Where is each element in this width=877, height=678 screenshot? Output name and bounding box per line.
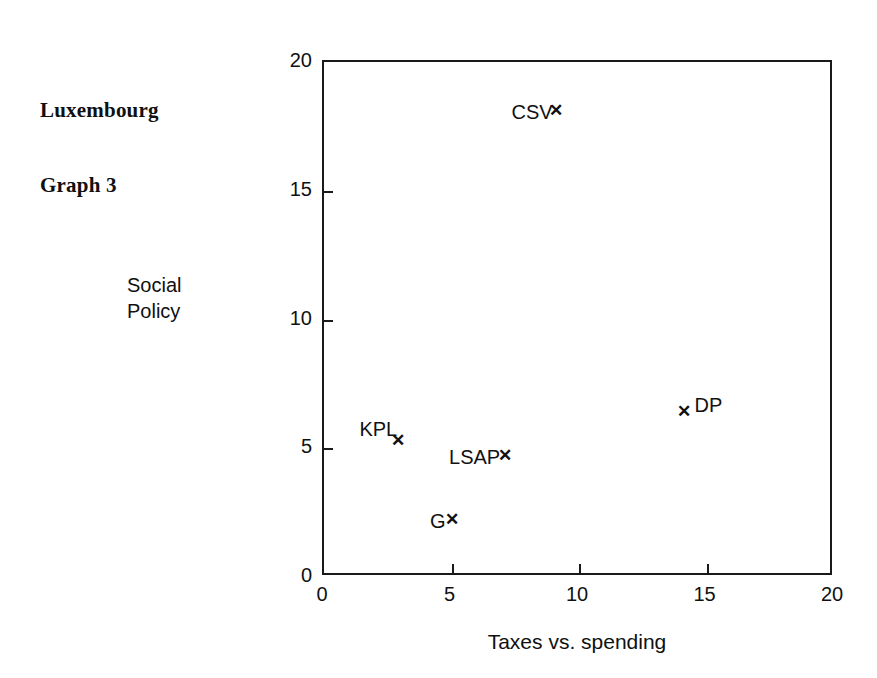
x-axis-tick — [579, 564, 581, 573]
corner-title-line-1: Luxembourg — [40, 98, 159, 123]
x-axis-tick — [707, 564, 709, 573]
data-point-label: G — [430, 511, 446, 531]
x-tick-label: 15 — [675, 583, 735, 605]
x-tick-label-group: 05101520 — [322, 583, 832, 613]
y-axis-tick — [324, 448, 333, 450]
corner-title-line-2: Graph 3 — [40, 173, 159, 198]
x-tick-label: 20 — [802, 583, 862, 605]
x-tick-label: 0 — [292, 583, 352, 605]
data-point-label: DP — [695, 395, 723, 415]
y-axis-title-line-1: Social — [127, 272, 181, 298]
y-axis-title: Social Policy — [127, 272, 181, 324]
data-point-label: KPL — [359, 419, 397, 439]
x-axis-tick — [452, 564, 454, 573]
data-point-marker: ✕ — [445, 513, 459, 527]
plot-area: ✕CSV✕DP✕KPL✕LSAP✕G — [322, 60, 832, 575]
data-point-marker: ✕ — [677, 405, 691, 419]
y-axis-tick — [324, 320, 333, 322]
x-tick-label: 5 — [420, 583, 480, 605]
y-tick-label-group: 05101520 — [242, 60, 312, 575]
figure-canvas: Luxembourg Graph 3 Social Policy ✕CSV✕DP… — [0, 0, 877, 678]
y-axis-title-line-2: Policy — [127, 298, 181, 324]
data-point-label: LSAP — [449, 447, 500, 467]
y-axis-tick — [324, 191, 333, 193]
x-axis-title: Taxes vs. spending — [322, 630, 832, 654]
y-tick-label: 0 — [252, 565, 312, 585]
data-point-label: CSV — [512, 102, 553, 122]
y-tick-label: 20 — [252, 50, 312, 70]
y-tick-label: 5 — [252, 436, 312, 456]
x-tick-label: 10 — [547, 583, 607, 605]
corner-title: Luxembourg Graph 3 — [40, 48, 159, 248]
y-tick-label: 10 — [252, 308, 312, 328]
y-tick-label: 15 — [252, 179, 312, 199]
